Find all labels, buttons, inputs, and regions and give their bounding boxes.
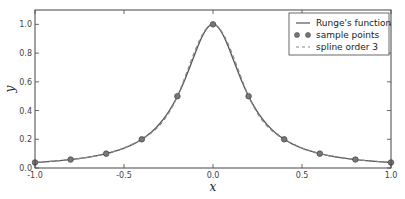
x-tick-label: 0.5 — [296, 171, 309, 180]
legend-marker-icon — [306, 33, 311, 38]
legend-item-runge: Runge's function — [316, 18, 391, 28]
runge-chart: -1.0-0.50.00.51.0 0.00.20.40.60.81.0 x y… — [0, 0, 405, 199]
y-tick-label: 0.8 — [19, 49, 32, 58]
x-axis-label: x — [210, 180, 217, 194]
x-tick-label: 0.0 — [207, 171, 220, 180]
y-tick-label: 0.4 — [19, 107, 32, 116]
legend-item-spline: spline order 3 — [316, 42, 378, 52]
sample-point — [317, 151, 323, 157]
y-tick-label: 0.0 — [19, 164, 32, 173]
legend: Runge's function sample points spline or… — [289, 13, 391, 55]
sample-point — [139, 136, 145, 142]
sample-point — [281, 136, 287, 142]
x-tick-label: -0.5 — [116, 171, 132, 180]
legend-item-samples: sample points — [316, 30, 380, 40]
sample-point — [210, 22, 216, 28]
y-tick-label: 1.0 — [19, 20, 32, 29]
y-tick-label: 0.6 — [19, 78, 32, 87]
sample-point — [175, 93, 181, 99]
legend-marker-icon — [295, 33, 300, 38]
sample-point — [68, 157, 74, 163]
sample-point — [103, 151, 109, 157]
y-axis-label: y — [3, 85, 17, 93]
sample-point — [353, 157, 359, 163]
x-tick-label: 1.0 — [385, 171, 398, 180]
y-tick-label: 0.2 — [19, 135, 32, 144]
sample-point — [246, 93, 252, 99]
